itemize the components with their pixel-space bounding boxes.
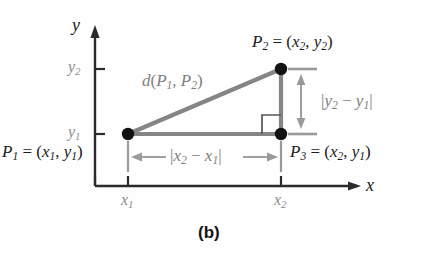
p3-close: ) xyxy=(365,142,371,161)
hdim-minus: − xyxy=(187,146,205,165)
x-tick-label-x1: x1 xyxy=(121,192,134,210)
y-tick-label-y1: y1 xyxy=(68,124,81,142)
hyp-comma: , xyxy=(172,71,181,90)
hdim-bar-close: | xyxy=(218,146,221,165)
horizontal-dimension-label: |x2 − x1| xyxy=(170,147,222,167)
figure-caption-text: (b) xyxy=(198,223,220,242)
x2-sub: 2 xyxy=(281,198,286,210)
p1-equals: = ( xyxy=(18,142,42,161)
p2-equals: = ( xyxy=(268,32,292,51)
y-axis-arrowhead xyxy=(90,25,99,38)
hypotenuse-label: d(P1, P2) xyxy=(142,72,203,92)
y-axis-group xyxy=(90,25,105,186)
p2-close: ) xyxy=(327,32,333,51)
point-dot-p2 xyxy=(275,63,287,75)
vertical-dimension-label: |y2 − y1| xyxy=(321,92,373,112)
point-label-p1: P1 = (x1, y1) xyxy=(2,143,83,163)
x1-sub: 1 xyxy=(128,198,133,210)
point-dot-p3 xyxy=(275,128,287,140)
x-axis-label: x xyxy=(366,176,374,194)
hyp-close: ) xyxy=(197,71,203,90)
x-tick-label-x2: x2 xyxy=(274,192,287,210)
y2-sub: 2 xyxy=(75,65,80,77)
horizontal-arrowhead-right xyxy=(267,153,278,162)
vertical-arrowhead-top xyxy=(297,74,306,85)
vertical-dimension-group xyxy=(288,69,317,134)
hyp-d: d xyxy=(142,71,151,90)
p3-comma: , xyxy=(343,142,352,161)
vdim-bar-close: | xyxy=(369,91,372,110)
horizontal-arrowhead-left xyxy=(131,153,142,162)
p1-comma: , xyxy=(55,142,64,161)
x-axis-label-text: x xyxy=(366,175,374,195)
hyp-pa: P xyxy=(156,71,166,90)
x-axis-arrowhead xyxy=(348,181,361,190)
x-axis-group xyxy=(95,176,361,191)
point-dot-p1 xyxy=(122,128,134,140)
y1-sub: 1 xyxy=(75,130,80,142)
p2-name: P xyxy=(252,32,262,51)
y-axis-label: y xyxy=(72,16,80,34)
figure-container: y x y2 y1 x1 x2 P2 = (x2, y2) P1 = (x1, … xyxy=(0,0,424,268)
point-label-p2: P2 = (x2, y2) xyxy=(252,33,333,53)
y-tick-label-y2: y2 xyxy=(68,59,81,77)
hyp-pb: P xyxy=(181,71,191,90)
p3-equals: = ( xyxy=(306,142,330,161)
vdim-term-a: y xyxy=(324,91,332,110)
p3-name: P xyxy=(290,142,300,161)
vdim-minus: − xyxy=(338,91,356,110)
vertical-arrowhead-bottom xyxy=(297,118,306,129)
p2-comma: , xyxy=(305,32,314,51)
hdim-term-a: x xyxy=(173,146,181,165)
point-label-p3: P3 = (x2, y1) xyxy=(290,143,371,163)
p1-close: ) xyxy=(77,142,83,161)
p1-name: P xyxy=(2,142,12,161)
figure-caption: (b) xyxy=(198,223,220,243)
y-axis-label-text: y xyxy=(72,15,80,35)
